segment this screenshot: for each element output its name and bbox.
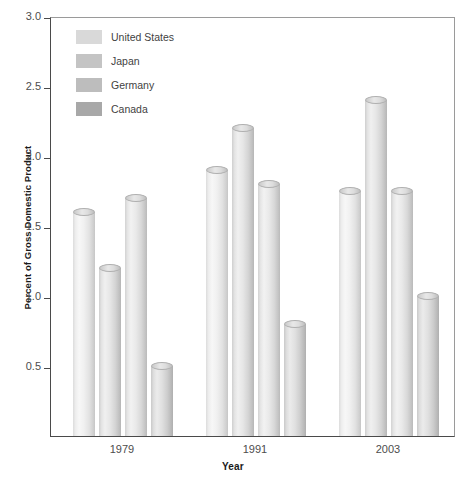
bar-body (99, 268, 121, 436)
bar-germany-2003 (391, 187, 413, 436)
bar-cap-ellipse (258, 180, 280, 188)
bar-canada-2003 (417, 292, 439, 436)
bar-cap-ellipse (284, 320, 306, 328)
x-tick-label-2003: 2003 (358, 443, 418, 455)
bar-cap-ellipse (99, 264, 121, 272)
legend-item-united-states: United States (76, 26, 174, 48)
y-tick-mark (44, 88, 51, 89)
y-tick-label: 0.5 (11, 360, 41, 372)
legend-swatch-icon (76, 102, 102, 116)
y-tick-mark (44, 368, 51, 369)
bar-body (339, 191, 361, 436)
y-tick-label: 2.0 (11, 150, 41, 162)
bar-canada-1991 (284, 320, 306, 436)
bar-body (284, 324, 306, 436)
bar-cap-ellipse (151, 362, 173, 370)
y-tick-mark (44, 18, 51, 19)
bar-germany-1991 (258, 180, 280, 436)
y-tick-mark (44, 298, 51, 299)
bar-body (206, 170, 228, 436)
bar-cap-ellipse (232, 124, 254, 132)
bar-cap-ellipse (206, 166, 228, 174)
bar-chart: Percent of Gross Domestic Product 0.51.0… (0, 0, 466, 484)
x-tick-label-1979: 1979 (92, 443, 152, 455)
legend-label: Germany (111, 79, 154, 91)
y-tick-label: 3.0 (11, 10, 41, 22)
bar-body (365, 100, 387, 436)
bar-cap-ellipse (391, 187, 413, 195)
bar-canada-1979 (151, 362, 173, 436)
chart-legend: United StatesJapanGermanyCanada (76, 26, 174, 122)
bar-japan-1979 (99, 264, 121, 436)
legend-item-japan: Japan (76, 50, 174, 72)
y-tick-label: 2.5 (11, 80, 41, 92)
bar-body (151, 366, 173, 436)
legend-item-canada: Canada (76, 98, 174, 120)
bar-body (258, 184, 280, 436)
legend-label: United States (111, 31, 174, 43)
bar-body (232, 128, 254, 436)
bar-body (391, 191, 413, 436)
bar-japan-2003 (365, 96, 387, 436)
x-tick-label-1991: 1991 (225, 443, 285, 455)
bar-united-states-2003 (339, 187, 361, 436)
bar-cap-ellipse (417, 292, 439, 300)
bar-cap-ellipse (365, 96, 387, 104)
y-tick-label: 1.0 (11, 290, 41, 302)
bar-cap-ellipse (339, 187, 361, 195)
legend-swatch-icon (76, 30, 102, 44)
y-tick-label: 1.5 (11, 220, 41, 232)
bar-cap-ellipse (125, 194, 147, 202)
legend-swatch-icon (76, 54, 102, 68)
y-tick-mark (44, 158, 51, 159)
legend-label: Canada (111, 103, 148, 115)
bar-united-states-1979 (73, 208, 95, 436)
bar-united-states-1991 (206, 166, 228, 436)
bar-body (417, 296, 439, 436)
x-axis-title: Year (0, 461, 466, 472)
bar-body (73, 212, 95, 436)
bar-cap-ellipse (73, 208, 95, 216)
legend-label: Japan (111, 55, 140, 67)
bar-japan-1991 (232, 124, 254, 436)
legend-swatch-icon (76, 78, 102, 92)
legend-item-germany: Germany (76, 74, 174, 96)
y-tick-mark (44, 228, 51, 229)
bar-germany-1979 (125, 194, 147, 436)
bar-body (125, 198, 147, 436)
